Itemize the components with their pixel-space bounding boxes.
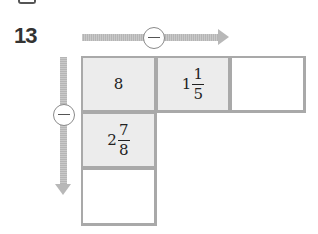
mixed-whole: 1 (182, 75, 192, 93)
down-arrow-icon (55, 184, 71, 195)
denominator: 5 (193, 87, 203, 102)
numerator: 7 (118, 123, 130, 138)
cell-r2c1: 2 7 8 (81, 112, 157, 169)
minus-circle-icon-horizontal (143, 27, 165, 49)
cell-r1c3-answer[interactable] (230, 56, 306, 113)
mixed-whole: 2 (107, 131, 117, 149)
question-number: 13 (14, 23, 36, 49)
minus-circle-icon-vertical (53, 104, 75, 126)
fraction: 1 5 (192, 67, 204, 102)
cell-value: 8 (114, 75, 124, 93)
numerator: 1 (192, 67, 204, 82)
partial-icon (18, 0, 36, 4)
cell-r3c1-answer[interactable] (81, 168, 157, 226)
right-arrow-icon (218, 29, 229, 45)
cell-r1c1: 8 (81, 56, 157, 113)
denominator: 8 (119, 143, 129, 158)
fraction: 7 8 (118, 123, 130, 158)
cell-r1c2: 1 1 5 (156, 56, 231, 113)
